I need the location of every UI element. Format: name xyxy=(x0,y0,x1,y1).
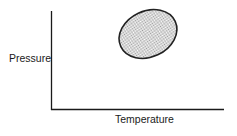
y-axis-label: Pressure xyxy=(9,52,51,64)
x-axis-label: Temperature xyxy=(115,113,174,125)
stippled-ellipse-region xyxy=(111,0,185,67)
pressure-temperature-diagram: Pressure Temperature xyxy=(0,0,237,136)
